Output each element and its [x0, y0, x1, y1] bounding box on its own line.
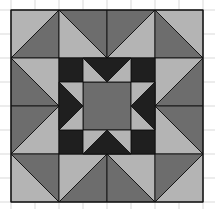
star-corner-2	[59, 130, 83, 154]
star-corner-1	[131, 58, 155, 82]
quilt-diagram	[0, 0, 215, 209]
star-corner-3	[131, 130, 155, 154]
star-corner-0	[59, 58, 83, 82]
center-sawtooth-star	[59, 58, 155, 154]
star-center-square	[83, 82, 131, 130]
